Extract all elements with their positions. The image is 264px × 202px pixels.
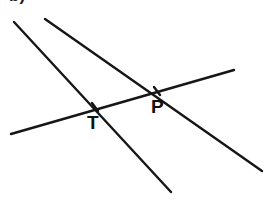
geometry-line-drawing bbox=[0, 0, 264, 202]
line-rising-transversal bbox=[11, 70, 234, 134]
line-second-descending bbox=[45, 19, 262, 171]
point-label-p: P bbox=[151, 97, 164, 116]
line-steep-descending bbox=[14, 22, 171, 192]
geometry-figure-canvas: b) T P bbox=[0, 0, 264, 202]
point-label-t: T bbox=[87, 113, 99, 132]
